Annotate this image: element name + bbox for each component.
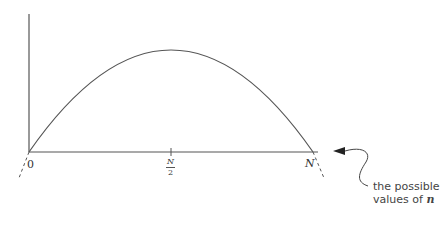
tick-label-half: N 2 xyxy=(166,158,175,177)
parabola-curve xyxy=(29,50,313,152)
arrow-head-icon xyxy=(333,147,345,155)
fraction-numerator: N xyxy=(167,158,174,166)
annotation-text: the possible values of n xyxy=(373,180,440,206)
curly-arrow-icon xyxy=(345,149,368,186)
tick-label-zero: 0 xyxy=(27,158,34,171)
fraction-denominator: 2 xyxy=(168,169,173,177)
annotation-prefix: values of xyxy=(373,193,426,206)
tick-label-n: N xyxy=(305,157,315,170)
annotation-line2: values of n xyxy=(373,193,440,206)
annotation-line1: the possible xyxy=(373,180,440,193)
annotation-variable: n xyxy=(426,193,434,206)
